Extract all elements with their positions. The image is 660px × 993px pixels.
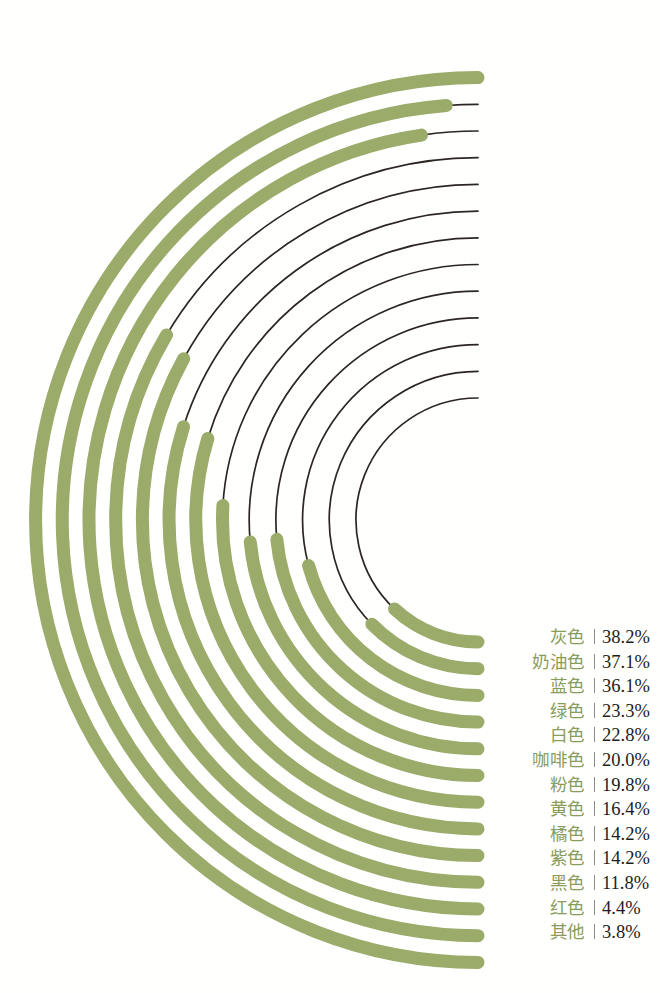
legend-item-label: 黑色 [550, 871, 585, 896]
legend-item-value: 23.3% [602, 699, 658, 724]
legend-item-value: 14.2% [602, 822, 658, 847]
legend-item-label: 橘色 [550, 822, 585, 847]
legend-separator-bar [594, 654, 596, 669]
legend-item-label: 咖啡色 [532, 748, 585, 773]
legend-row[interactable]: 其他3.8% [498, 920, 658, 945]
legend-item-value: 4.4% [602, 896, 658, 921]
track-arc [276, 318, 478, 539]
legend-item-label: 其他 [550, 920, 585, 945]
legend-row[interactable]: 黄色16.4% [498, 797, 658, 822]
legend-row[interactable]: 粉色19.8% [498, 773, 658, 798]
legend-separator-bar [594, 875, 596, 890]
legend-item-value: 3.8% [602, 920, 658, 945]
track-arc [303, 345, 478, 566]
legend-separator-bar [594, 752, 596, 767]
legend-item-value: 37.1% [602, 650, 658, 675]
legend-item-value: 20.0% [602, 748, 658, 773]
legend-separator-bar [594, 801, 596, 816]
track-arc [167, 158, 478, 335]
legend-separator-bar [594, 703, 596, 718]
track-arc [329, 371, 478, 624]
track-arc [184, 184, 478, 358]
legend-item-value: 16.4% [602, 797, 658, 822]
legend-separator-bar [594, 678, 596, 693]
track-arc [421, 131, 478, 135]
legend-item-label: 红色 [550, 896, 585, 921]
track-arc [184, 211, 478, 427]
legend-row[interactable]: 蓝色36.1% [498, 674, 658, 699]
legend-item-label: 灰色 [550, 625, 585, 650]
legend-separator-bar [594, 777, 596, 792]
legend-row[interactable]: 紫色14.2% [498, 846, 658, 871]
legend-separator-bar [594, 850, 596, 865]
legend-item-value: 22.8% [602, 723, 658, 748]
track-arc [249, 291, 478, 542]
legend-separator-bar [594, 727, 596, 742]
legend-item-label: 紫色 [550, 846, 585, 871]
legend-item-label: 奶油色 [532, 650, 585, 675]
value-arc[interactable] [309, 566, 478, 696]
legend-item-label: 粉色 [550, 773, 585, 798]
legend-item-value: 38.2% [602, 625, 658, 650]
legend-row[interactable]: 奶油色37.1% [498, 650, 658, 675]
legend-item-label: 绿色 [550, 699, 585, 724]
legend-separator-bar [594, 924, 596, 939]
value-arc[interactable] [395, 609, 478, 642]
legend-item-label: 黄色 [550, 797, 585, 822]
legend-item-value: 19.8% [602, 773, 658, 798]
legend-item-label: 白色 [550, 723, 585, 748]
legend-separator-bar [594, 900, 596, 915]
legend-row[interactable]: 灰色38.2% [498, 625, 658, 650]
value-arc-group [36, 78, 478, 963]
legend-item-value: 14.2% [602, 846, 658, 871]
legend-row[interactable]: 绿色23.3% [498, 699, 658, 724]
legend-item-value: 36.1% [602, 674, 658, 699]
legend-separator-bar [594, 826, 596, 841]
legend-row[interactable]: 红色4.4% [498, 896, 658, 921]
legend-item-label: 蓝色 [550, 674, 585, 699]
track-arc [356, 398, 478, 609]
legend-row[interactable]: 黑色11.8% [498, 871, 658, 896]
value-arc[interactable] [36, 78, 478, 963]
legend: 灰色38.2%奶油色37.1%蓝色36.1%绿色23.3%白色22.8%咖啡色2… [498, 625, 658, 945]
legend-row[interactable]: 橘色14.2% [498, 822, 658, 847]
legend-row[interactable]: 咖啡色20.0% [498, 748, 658, 773]
legend-separator-bar [594, 629, 596, 644]
legend-item-value: 11.8% [602, 871, 658, 896]
legend-row[interactable]: 白色22.8% [498, 723, 658, 748]
